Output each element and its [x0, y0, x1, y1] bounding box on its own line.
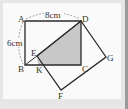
shaded-region — [37, 21, 81, 65]
point-label-k: K — [36, 65, 43, 75]
point-label-a: A — [18, 14, 25, 24]
point-label-b: B — [18, 64, 24, 74]
point-label-d: D — [82, 14, 89, 24]
geometry-diagram: 8cm 6cm A D B C E K G F — [0, 0, 128, 109]
dimension-label-ab: 6cm — [7, 38, 23, 48]
point-label-g: G — [107, 53, 114, 63]
point-label-f: F — [58, 91, 63, 101]
point-label-c: C — [82, 64, 88, 74]
point-label-e: E — [31, 48, 37, 58]
dimension-label-ad: 8cm — [45, 10, 61, 20]
